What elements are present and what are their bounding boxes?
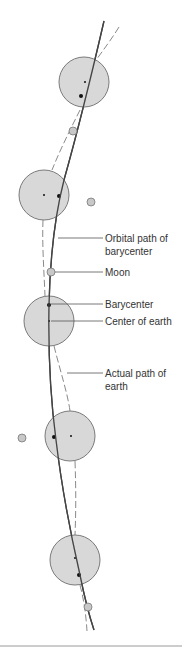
earth-position-5 (50, 535, 100, 585)
center-of-earth-dot (84, 81, 86, 83)
orbital-path-label-line2: barycenter (105, 246, 153, 257)
center-of-earth-dot (43, 194, 45, 196)
center-of-earth-label: Center of earth (105, 316, 172, 327)
barycenter-dot (79, 94, 83, 98)
barycenter-label: Barycenter (105, 299, 154, 310)
actual-path-label-line2: earth (105, 381, 128, 392)
moon-label: Moon (105, 267, 130, 278)
moon-position-3 (47, 268, 55, 276)
earth-position-2 (19, 170, 69, 220)
actual-path-label-line1: Actual path of (105, 368, 166, 379)
moon-position-5 (84, 603, 92, 611)
moon-position-2 (87, 198, 95, 206)
moon-position-4 (18, 434, 26, 442)
orbital-path-label-line1: Orbital path of (105, 233, 168, 244)
earth-position-4 (45, 411, 95, 461)
barycenter-diagram: Orbital path of barycenter Moon Barycent… (0, 0, 182, 651)
center-of-earth-dot (70, 435, 72, 437)
earth-position-1 (59, 57, 109, 107)
moon-position-1 (69, 127, 77, 135)
